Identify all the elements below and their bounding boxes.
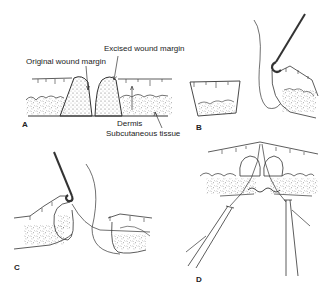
panel-c-drawing (14, 152, 152, 254)
panel-label-c: C (14, 264, 20, 272)
label-dermis: Dermis (117, 120, 142, 128)
panel-d-drawing (186, 142, 318, 276)
panel-b-drawing (190, 14, 318, 118)
panel-label-d: D (196, 276, 202, 284)
panel-a-drawing (26, 56, 172, 128)
panel-label-a: A (22, 121, 28, 129)
label-subcutaneous-tissue: Subcutaneous tissue (106, 130, 180, 138)
panel-label-b: B (196, 124, 202, 132)
label-excised-wound-margin: Excised wound margin (104, 45, 184, 53)
label-original-wound-margin: Original wound margin (26, 58, 106, 66)
